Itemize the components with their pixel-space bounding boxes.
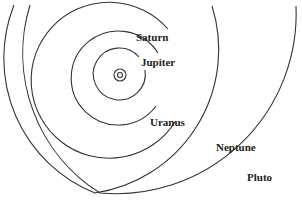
orbit-diagram: Saturn Jupiter Uranus Neptune Pluto bbox=[0, 0, 302, 203]
jupiter-orbit bbox=[93, 48, 145, 100]
inner-planets-ring bbox=[114, 69, 126, 81]
sun-inner-ring bbox=[118, 73, 123, 78]
label-pluto: Pluto bbox=[247, 172, 272, 183]
label-jupiter: Jupiter bbox=[141, 57, 175, 68]
uranus-orbit bbox=[31, 2, 175, 158]
label-saturn: Saturn bbox=[136, 32, 168, 43]
label-neptune: Neptune bbox=[216, 142, 256, 153]
label-uranus: Uranus bbox=[150, 117, 185, 128]
